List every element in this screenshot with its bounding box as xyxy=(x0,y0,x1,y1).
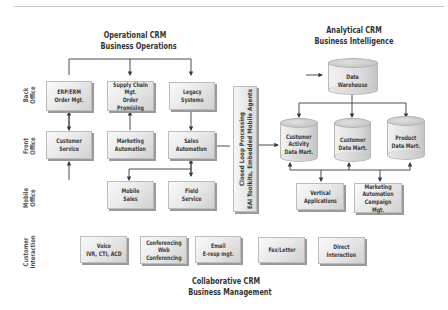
mobile-sales-box: Mobile Sales xyxy=(107,181,154,209)
row-label-front-office: Front Office xyxy=(23,128,35,164)
conferencing-box: Conferencing Web Conferencing xyxy=(140,236,187,264)
collaborative-title-line2: Business Management xyxy=(188,287,264,298)
fax-letter-label: Fax/Letter xyxy=(268,246,295,254)
customer-activity-mart-label: Customer Activity Data Mart. xyxy=(285,133,314,156)
vertical-applications-label: Vertical Applications xyxy=(303,189,336,204)
vertical-applications-box: Vertical Applications xyxy=(296,183,344,210)
operational-crm-title: Operational CRM Business Operations xyxy=(101,30,170,52)
product-mart-cylinder: Product Data Mart. xyxy=(387,116,425,160)
customer-mart-cylinder: Customer Data Mart. xyxy=(334,118,371,162)
customer-service-label: Customer Service xyxy=(56,137,82,152)
direct-interaction-box: Direct Interaction xyxy=(318,237,365,264)
collaborative-title-line1: Collaborative CRM xyxy=(188,276,264,287)
field-service-box: Field Service xyxy=(168,181,215,209)
field-service-label: Field Service xyxy=(182,187,202,202)
marketing-automation-label: Marketing Automation xyxy=(115,137,146,152)
row-label-mobile-office: Mobile Office xyxy=(23,180,35,216)
operational-title-line1: Operational CRM xyxy=(101,30,170,41)
collaborative-crm-title: Collaborative CRM Business Management xyxy=(188,276,264,298)
customer-mart-label: Customer Data Mart. xyxy=(338,136,367,151)
conferencing-label: Conferencing Web Conferencing xyxy=(146,239,181,262)
campaign-mgt-label: Marketing Automation Campaign Mgt. xyxy=(358,183,397,213)
erp-label: ERP/ERM Order Mgt. xyxy=(54,88,83,103)
sales-automation-label: Sales Automation xyxy=(176,137,207,152)
email-box: Email E-resp mgt. xyxy=(195,236,241,263)
direct-interaction-label: Direct Interaction xyxy=(327,243,356,258)
erp-order-mgt-box: ERP/ERM Order Mgt. xyxy=(46,81,92,111)
marketing-automation-box: Marketing Automation xyxy=(107,131,154,159)
email-label: Email E-resp mgt. xyxy=(203,242,234,257)
customer-activity-mart-cylinder: Customer Activity Data Mart. xyxy=(280,118,318,162)
analytical-title-line1: Analytical CRM xyxy=(314,25,393,36)
supply-chain-label: Supply Chain Mgt. Order Promising xyxy=(111,81,149,111)
data-warehouse-label: Data Warehouse xyxy=(338,73,368,88)
closed-loop-label: Closed Loop Processing EAI Toolkits, Emb… xyxy=(238,89,253,209)
operational-title-line2: Business Operations xyxy=(101,41,170,52)
fax-letter-box: Fax/Letter xyxy=(258,237,305,263)
row-label-back-office: Back Office xyxy=(23,77,35,113)
data-warehouse-cylinder: Data Warehouse xyxy=(328,58,378,95)
voice-box: Voice IVR, CTI, ACD xyxy=(80,236,127,263)
mobile-sales-label: Mobile Sales xyxy=(122,187,140,202)
campaign-mgt-box: Marketing Automation Campaign Mgt. xyxy=(354,183,402,213)
legacy-label: Legacy Systems xyxy=(181,88,204,103)
analytical-crm-title: Analytical CRM Business Intelligence xyxy=(314,25,393,47)
voice-label: Voice IVR, CTI, ACD xyxy=(86,242,122,257)
row-label-customer-interaction: Customer Interaction xyxy=(23,234,35,270)
analytical-title-line2: Business Intelligence xyxy=(314,36,393,47)
product-mart-label: Product Data Mart. xyxy=(392,134,421,149)
supply-chain-box: Supply Chain Mgt. Order Promising xyxy=(107,81,154,111)
sales-automation-box: Sales Automation xyxy=(168,131,215,159)
customer-service-box: Customer Service xyxy=(46,131,92,159)
closed-loop-processing-box: Closed Loop Processing EAI Toolkits, Emb… xyxy=(233,86,257,212)
legacy-systems-box: Legacy Systems xyxy=(169,82,215,110)
